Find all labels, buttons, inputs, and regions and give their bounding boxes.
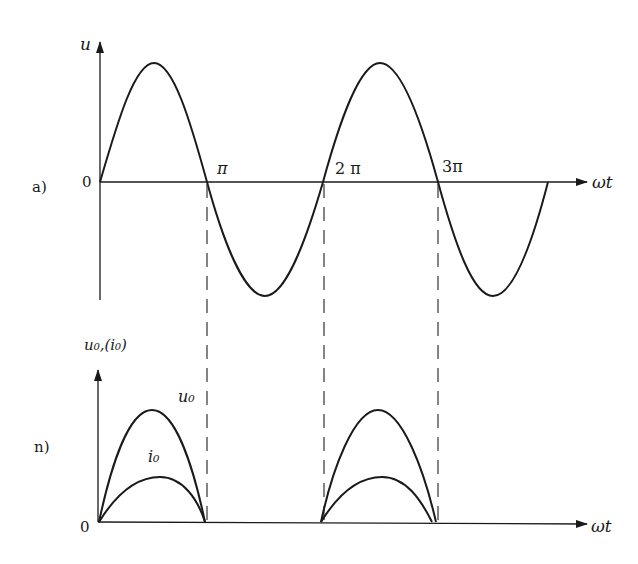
rectifier-waveform-diagram: u 0 π 2 π 3π ωt a) u₀,(i₀) u₀ i₀ 0 ωt n)	[0, 0, 638, 564]
i0-curve-2	[321, 477, 432, 522]
panel-n-x-axis	[98, 522, 587, 524]
panel-a-y-label: u	[80, 34, 91, 54]
u0-curve-1	[99, 410, 205, 522]
u0-curve-2	[321, 410, 436, 522]
panel-n-x-label: ωt	[591, 516, 612, 536]
panel-n-y-label: u₀,(i₀)	[84, 336, 127, 354]
i0-curve-label: i₀	[148, 447, 160, 466]
dashed-guides	[207, 184, 438, 522]
panel-a: u 0 π 2 π 3π ωt a)	[32, 34, 613, 300]
u0-curve-label: u₀	[178, 387, 195, 406]
panel-n-label: n)	[34, 438, 50, 456]
panel-a-tick-pi: π	[216, 159, 228, 178]
panel-a-origin-label: 0	[82, 173, 92, 191]
panel-a-x-label: ωt	[592, 172, 613, 192]
panel-a-label: a)	[32, 178, 47, 196]
i0-curve-1	[99, 477, 205, 522]
panel-a-tick-3pi: 3π	[442, 157, 463, 176]
panel-n-origin-label: 0	[80, 518, 90, 536]
panel-n: u₀,(i₀) u₀ i₀ 0 ωt n)	[34, 336, 612, 536]
panel-a-tick-2pi: 2 π	[335, 159, 361, 178]
